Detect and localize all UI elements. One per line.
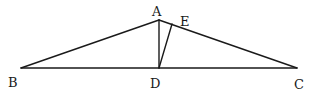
segment-ab [21,20,159,68]
point-label-a: A [151,4,162,19]
point-label-d: D [150,76,160,91]
point-label-e: E [180,14,190,29]
point-label-b: B [8,75,18,90]
segment-de [159,24,172,68]
triangle-diagram: A E B D C [0,0,313,95]
point-label-c: C [294,77,304,92]
